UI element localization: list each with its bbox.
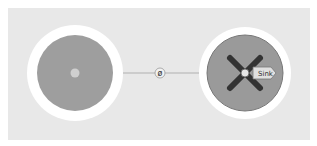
edge-midpoint-handle[interactable]: ø bbox=[155, 68, 165, 78]
sink-label: Sink bbox=[258, 70, 274, 78]
sink-port-dot[interactable] bbox=[241, 69, 249, 77]
source-node[interactable] bbox=[27, 25, 123, 121]
source-port-dot[interactable] bbox=[71, 69, 80, 78]
diagram-svg: Sink ø bbox=[0, 0, 317, 146]
edge-glyph-icon: ø bbox=[158, 69, 163, 78]
sink-label-tag[interactable]: Sink bbox=[253, 67, 276, 79]
sink-node[interactable]: Sink bbox=[199, 27, 291, 119]
